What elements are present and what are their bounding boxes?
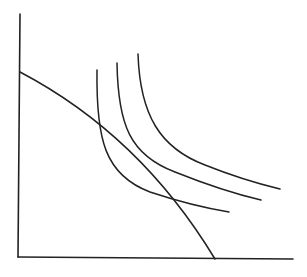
indifference-curve-middle [117,63,261,200]
y-axis [18,14,20,257]
x-axis [18,257,293,259]
indifference-curve-inner [97,70,229,212]
budget-line [20,72,215,259]
diagram-canvas [0,0,307,277]
indifference-curve-diagram [0,0,307,277]
indifference-curve-outer [138,54,280,189]
